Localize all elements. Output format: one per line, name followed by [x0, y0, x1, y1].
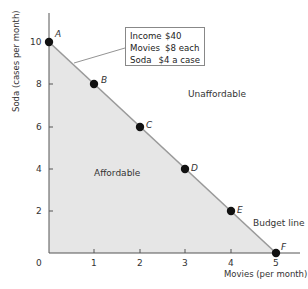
y-tick-4: 4 [36, 164, 42, 174]
info-value: $8 each [165, 42, 199, 54]
budget-line-label: Budget line [253, 218, 305, 228]
origin-label: 0 [36, 258, 42, 268]
unaffordable-label: Unaffordable [188, 89, 246, 99]
point-c [136, 123, 144, 131]
x-tick-1: 1 [91, 258, 97, 268]
info-key: Income [130, 30, 165, 42]
info-key: Movies [130, 42, 165, 54]
point-a [45, 38, 53, 46]
info-row-soda: Soda $4 a case [130, 54, 200, 66]
point-label-f: F [281, 242, 287, 252]
y-axis-title: Soda (cases per month) [11, 10, 21, 112]
info-value: $4 a case [159, 54, 200, 66]
point-b [90, 80, 98, 88]
y-tick-2: 2 [36, 206, 42, 216]
info-value: $40 [165, 30, 181, 42]
info-key: Soda [130, 54, 159, 66]
point-d [181, 165, 189, 173]
x-tick-3: 3 [182, 258, 188, 268]
point-f [272, 249, 280, 257]
x-axis-title: Movies (per month) [224, 269, 307, 279]
point-e [227, 207, 235, 215]
x-tick-4: 4 [228, 258, 234, 268]
x-tick-5: 5 [273, 258, 279, 268]
info-leader-line [74, 48, 125, 63]
point-label-b: B [101, 75, 107, 85]
info-row-movies: Movies $8 each [130, 42, 200, 54]
info-row-income: Income $40 [130, 30, 200, 42]
y-tick-8: 8 [36, 79, 42, 89]
x-tick-2: 2 [137, 258, 143, 268]
point-label-e: E [237, 205, 243, 215]
info-box: Income $40 Movies $8 each Soda $4 a case [125, 27, 205, 66]
point-label-a: A [54, 29, 61, 39]
y-tick-6: 6 [36, 122, 42, 132]
affordable-label: Affordable [94, 168, 141, 178]
point-label-c: C [146, 120, 153, 130]
y-tick-10: 10 [30, 37, 42, 47]
point-label-d: D [191, 163, 198, 173]
